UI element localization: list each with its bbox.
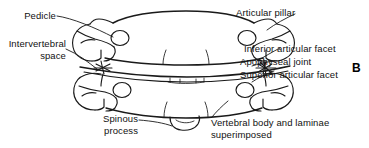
panel-letter-b: B bbox=[352, 61, 361, 75]
label-superior-articular-facet: Superior articular facet bbox=[240, 69, 338, 81]
leader-vertebral-body bbox=[212, 101, 228, 117]
pedicle-ring-left-lower bbox=[113, 83, 131, 98]
label-vertebral-body-line1: Vertebral body and laminae bbox=[211, 117, 329, 129]
pedicle-ring-right-lower bbox=[236, 83, 254, 98]
label-inferior-articular-facet: Inferior articular facet bbox=[244, 43, 336, 55]
label-vertebral-body-line2: superimposed bbox=[211, 129, 272, 141]
leader-intervertebral-space bbox=[66, 49, 97, 69]
label-articular-pillar: Articular pillar bbox=[236, 7, 295, 19]
label-apophyseal-joint: Apophyseal joint bbox=[240, 56, 311, 68]
label-intervertebral-space-line2: space bbox=[0, 50, 66, 62]
label-intervertebral-space-line1: Intervertebral bbox=[0, 38, 66, 50]
leader-spinous-process bbox=[139, 120, 172, 126]
label-spinous-process-line2: process bbox=[82, 125, 138, 137]
figure-panel: Pedicle Intervertebral space Spinous pro… bbox=[0, 0, 369, 148]
pedicle-ring-left bbox=[111, 31, 129, 46]
label-spinous-process-line1: Spinous bbox=[82, 113, 138, 125]
label-pedicle: Pedicle bbox=[4, 10, 56, 22]
leader-pedicle bbox=[57, 16, 113, 37]
